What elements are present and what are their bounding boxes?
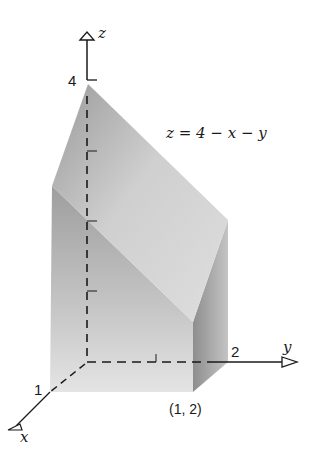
x-axis-solid [16,392,50,426]
corner-point-label: (1, 2) [169,401,202,417]
solid-diagram: z 4 z = 4 − x − y 2 y 1 x (1, 2) [0,0,310,452]
z-axis-arrowhead [80,32,94,40]
z-tick-label: 4 [68,72,76,89]
y-axis-arrowhead [282,357,297,367]
y-tick-label: 2 [231,343,239,360]
equation-label: z = 4 − x − y [165,124,267,142]
x-axis-label: x [20,428,29,446]
x-tick-label: 1 [34,381,42,398]
z-axis-label: z [97,24,106,42]
y-axis-label: y [282,338,292,356]
